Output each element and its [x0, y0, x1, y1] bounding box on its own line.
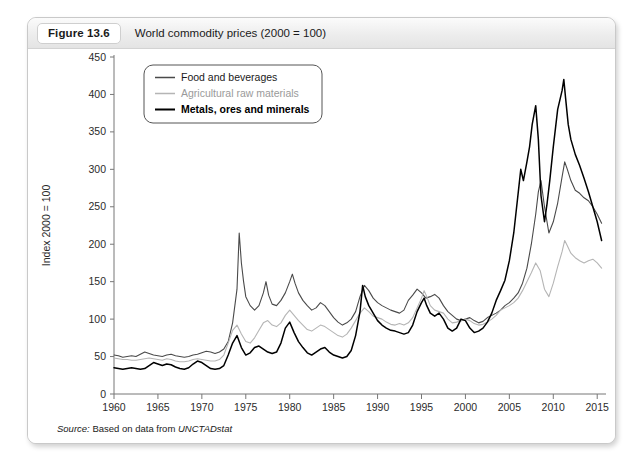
x-tick-label: 2015: [586, 401, 610, 413]
x-tick-label: 2000: [454, 401, 478, 413]
source-text: Based on data from: [90, 423, 178, 434]
line-chart: 050100150200250300350400450Index 2000 = …: [28, 49, 616, 421]
figure-card: Figure 13.6 World commodity prices (2000…: [27, 17, 616, 444]
y-tick-label: 150: [88, 275, 106, 287]
y-axis-title: Index 2000 = 100: [40, 185, 52, 267]
x-tick-label: 1970: [190, 401, 214, 413]
y-tick-label: 100: [88, 313, 106, 325]
y-tick-label: 350: [88, 125, 106, 137]
x-tick-label: 2005: [498, 401, 522, 413]
legend-label-2: Agricultural raw materials: [181, 87, 299, 99]
series-line-1: [114, 162, 602, 357]
figure-number: Figure 13.6: [37, 23, 121, 44]
x-tick-label: 1975: [234, 401, 258, 413]
source-note: Source: Based on data from UNCTADstat: [57, 423, 232, 434]
source-reference: UNCTADstat: [178, 423, 232, 434]
x-axis: 1960196519701975198019851990199520002005…: [102, 394, 609, 413]
y-tick-label: 400: [88, 88, 106, 100]
figure-body: 050100150200250300350400450Index 2000 = …: [28, 49, 615, 443]
y-axis: 050100150200250300350400450Index 2000 = …: [40, 51, 114, 400]
legend-label-1: Food and beverages: [181, 71, 277, 83]
legend-label-3: Metals, ores and minerals: [181, 103, 310, 115]
source-label: Source:: [57, 423, 90, 434]
x-tick-label: 1985: [322, 401, 346, 413]
x-tick-label: 1995: [410, 401, 434, 413]
x-tick-label: 1980: [278, 401, 302, 413]
y-tick-label: 250: [88, 200, 106, 212]
x-tick-label: 1965: [146, 401, 170, 413]
chart-legend: Food and beveragesAgricultural raw mater…: [144, 65, 322, 123]
y-tick-label: 300: [88, 163, 106, 175]
figure-title: World commodity prices (2000 = 100): [135, 27, 326, 39]
y-tick-label: 50: [94, 350, 106, 362]
chart-area: 050100150200250300350400450Index 2000 = …: [28, 49, 616, 421]
x-tick-label: 2010: [542, 401, 566, 413]
x-tick-label: 1960: [102, 401, 126, 413]
y-tick-label: 200: [88, 238, 106, 250]
y-tick-label: 0: [100, 388, 106, 400]
x-tick-label: 1990: [366, 401, 390, 413]
y-tick-label: 450: [88, 51, 106, 63]
figure-header: Figure 13.6 World commodity prices (2000…: [28, 18, 615, 49]
